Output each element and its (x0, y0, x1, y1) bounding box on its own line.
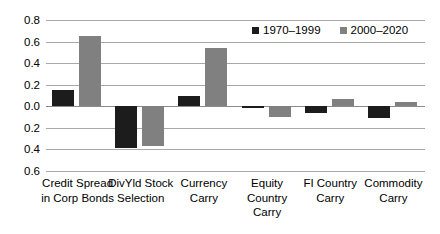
legend-label: 2000–2020 (351, 24, 409, 36)
legend-swatch-icon (340, 27, 347, 34)
bar (52, 90, 74, 106)
bar-chart: 0.80.60.40.20.00.20.40.6 1970–1999 2000–… (0, 0, 440, 234)
y-axis-tick-label: 0.6 (0, 165, 40, 177)
bar-group (46, 20, 109, 171)
legend-item-2000-2020: 2000–2020 (340, 24, 409, 36)
legend-label: 1970–1999 (263, 24, 321, 36)
y-axis-tick-label: 0.6 (0, 36, 40, 48)
bar (395, 102, 417, 106)
bar (79, 36, 101, 107)
bar (368, 106, 390, 118)
bar-group (172, 20, 235, 171)
bar (142, 106, 164, 146)
legend-item-1970-1999: 1970–1999 (252, 24, 321, 36)
category-label-line: Carry (356, 191, 431, 206)
x-axis-category-label: CommodityCarry (356, 176, 431, 205)
y-axis-tick-label: 0.2 (0, 122, 40, 134)
y-axis-tick-label: 0.4 (0, 57, 40, 69)
category-label-line: Commodity (356, 176, 431, 191)
bar-group (109, 20, 172, 171)
bar (205, 48, 227, 107)
bar-group (362, 20, 425, 171)
bar (242, 106, 264, 108)
bar (115, 106, 137, 148)
gridline (46, 171, 425, 172)
bar-group (236, 20, 299, 171)
y-axis-tick-label: 0.0 (0, 100, 40, 112)
bar (269, 106, 291, 117)
bar-group (299, 20, 362, 171)
bar (305, 106, 327, 112)
legend-swatch-icon (252, 27, 259, 34)
y-axis-tick-label: 0.2 (0, 79, 40, 91)
plot-area (46, 20, 425, 171)
x-axis-labels: Credit Spreadin Corp BondsDivYld StockSe… (46, 176, 425, 228)
bar (178, 96, 200, 107)
category-label-line: Carry (230, 205, 305, 220)
legend: 1970–1999 2000–2020 (252, 24, 408, 36)
y-axis: 0.80.60.40.20.00.20.40.6 (0, 0, 44, 234)
bar (332, 99, 354, 107)
y-axis-tick-label: 0.4 (0, 143, 40, 155)
y-axis-tick-label: 0.8 (0, 14, 40, 26)
